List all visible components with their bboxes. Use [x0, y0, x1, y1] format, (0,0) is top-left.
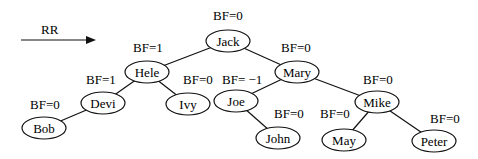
balance-factor-mike: BF=0 [363, 73, 393, 86]
rr-arrow [21, 36, 96, 44]
balance-factor-hele: BF=1 [133, 41, 163, 54]
node-label-joe: Joe [227, 95, 244, 108]
node-label-bob: Bob [33, 122, 55, 135]
balance-factor-may: BF=0 [320, 107, 350, 120]
balance-factor-peter: BF=0 [430, 112, 460, 125]
rotation-label: RR [41, 23, 58, 36]
node-label-jack: Jack [216, 35, 239, 48]
balance-factor-ivy: BF=0 [183, 73, 213, 86]
node-label-hele: Hele [135, 66, 160, 79]
balance-factor-bob: BF=0 [30, 98, 60, 111]
balance-factor-devi: BF=1 [86, 73, 116, 86]
balance-factor-jack: BF=0 [213, 9, 243, 22]
node-label-may: May [332, 134, 356, 147]
node-label-mike: Mike [363, 96, 390, 109]
node-label-ivy: Ivy [179, 98, 196, 111]
balance-factor-mary: BF=0 [281, 41, 311, 54]
node-label-devi: Devi [90, 97, 115, 110]
node-label-peter: Peter [421, 135, 448, 148]
node-label-john: John [266, 132, 291, 145]
node-label-mary: Mary [283, 66, 311, 79]
balance-factor-john: BF=0 [274, 107, 304, 120]
balance-factor-joe: BF= −1 [222, 73, 262, 86]
